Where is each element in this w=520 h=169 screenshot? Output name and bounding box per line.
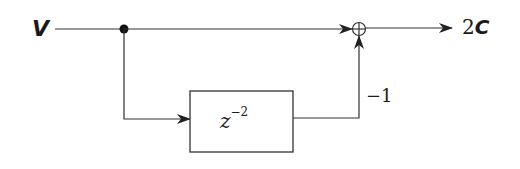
- input-label: V: [32, 18, 49, 40]
- diagram-canvas: [0, 0, 520, 169]
- delay-exponent: −2: [231, 105, 249, 119]
- delay-block-label: z−2: [220, 110, 248, 131]
- output-variable: C: [475, 15, 490, 39]
- summing-junction-icon: [353, 23, 366, 36]
- output-coefficient: 2: [462, 15, 475, 39]
- output-label: 2C: [462, 17, 489, 37]
- delay-path-arrow: [124, 29, 190, 119]
- feedback-gain-label: −1: [366, 87, 393, 105]
- feedback-path-arrow: [293, 36, 359, 118]
- delay-base: z: [220, 109, 231, 133]
